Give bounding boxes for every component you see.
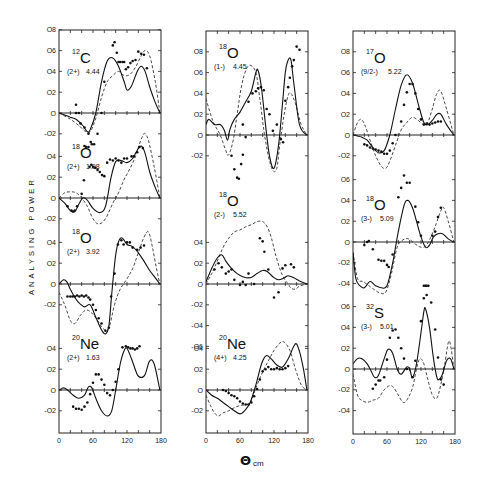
- data-point: [238, 177, 241, 180]
- data-point: [427, 285, 430, 288]
- nucleus-mass: 32: [366, 303, 374, 310]
- subplot-18O-4.45: O8O6O4O2O-O218O(1-)4.45: [191, 43, 308, 180]
- data-point: [383, 152, 386, 155]
- data-point: [411, 376, 414, 379]
- data-point: [428, 123, 431, 126]
- data-point: [250, 401, 253, 404]
- data-point: [374, 383, 377, 386]
- data-point: [114, 380, 117, 383]
- data-point: [261, 370, 264, 373]
- data-point: [75, 112, 78, 115]
- data-point: [138, 146, 141, 149]
- state-spin-parity: (2+): [67, 248, 80, 256]
- data-point: [389, 149, 392, 152]
- data-point: [239, 400, 242, 403]
- panel-frame: [353, 31, 455, 434]
- data-point: [284, 367, 287, 370]
- data-point: [363, 143, 366, 146]
- data-point: [87, 133, 90, 136]
- nucleus-mass: 18: [219, 43, 227, 50]
- data-point: [122, 243, 125, 246]
- data-point: [83, 179, 86, 182]
- data-point: [117, 368, 120, 371]
- data-point: [414, 92, 417, 95]
- data-point: [95, 309, 98, 312]
- y-tick-label: O6: [194, 69, 203, 76]
- nucleus-symbol: O: [80, 144, 92, 161]
- data-point: [281, 267, 284, 270]
- data-point: [403, 174, 406, 177]
- data-point: [101, 174, 104, 177]
- y-tick-label: -O2: [191, 301, 203, 308]
- y-tick-label: O4: [194, 239, 203, 246]
- data-point: [293, 266, 296, 269]
- data-point: [372, 248, 375, 251]
- data-point: [259, 237, 262, 240]
- data-point: [117, 159, 120, 162]
- data-point: [260, 86, 263, 89]
- y-tick-label: O2: [194, 366, 203, 373]
- y-tick-label: -O4: [338, 407, 350, 414]
- y-tick-label: -O2: [44, 301, 56, 308]
- data-point: [138, 345, 141, 348]
- x-tick-label: 180: [155, 437, 167, 444]
- data-point: [273, 368, 276, 371]
- data-point: [78, 407, 81, 410]
- y-tick-label: O: [198, 387, 204, 394]
- data-point: [143, 53, 146, 56]
- data-point: [280, 138, 283, 141]
- data-point: [125, 68, 128, 71]
- solid-curve: [59, 146, 160, 213]
- data-point: [264, 368, 267, 371]
- data-point: [69, 295, 72, 298]
- solid-curve: [353, 75, 454, 153]
- data-point: [276, 367, 279, 370]
- data-point: [106, 161, 109, 164]
- data-point: [240, 163, 243, 166]
- y-tick-label: O2: [341, 218, 350, 225]
- data-point: [227, 392, 230, 395]
- data-point: [287, 365, 290, 368]
- data-point: [287, 86, 290, 89]
- x-tick-label: 0: [351, 438, 355, 445]
- data-point: [267, 268, 270, 271]
- data-point: [103, 384, 106, 387]
- nucleus-mass: 20: [219, 334, 227, 341]
- data-point: [372, 387, 375, 390]
- data-point: [394, 328, 397, 331]
- data-point: [66, 295, 69, 298]
- data-point: [281, 368, 284, 371]
- y-tick-label: O: [51, 110, 57, 117]
- data-point: [417, 108, 420, 111]
- data-point: [437, 120, 440, 123]
- y-tick-label: -O4: [338, 280, 350, 287]
- data-point: [146, 67, 149, 70]
- data-point: [110, 295, 113, 298]
- data-point: [137, 50, 140, 53]
- x-axis-label: Θ cm: [240, 453, 264, 468]
- data-point: [129, 347, 132, 350]
- y-tick-label: -O2: [44, 407, 56, 414]
- data-point: [113, 41, 116, 44]
- data-point: [423, 123, 426, 126]
- data-point: [87, 296, 90, 299]
- data-point: [273, 296, 276, 299]
- data-point: [127, 346, 130, 349]
- data-point: [391, 253, 394, 256]
- data-point: [83, 295, 86, 298]
- solid-curve: [206, 255, 307, 284]
- state-spin-parity: (3-): [361, 215, 372, 223]
- y-tick-label: O4: [341, 197, 350, 204]
- y-tick-label: O8: [341, 48, 350, 55]
- panel-column-2: 060120180O8O6O4O2O-O217O(9/2-)5.22O6O4O2…: [338, 31, 461, 445]
- data-point: [256, 388, 259, 391]
- data-point: [386, 358, 389, 361]
- state-spin-parity: (2+): [67, 354, 80, 362]
- data-point: [119, 61, 122, 64]
- x-tick-label: 180: [449, 438, 461, 445]
- y-tick-label: O4: [341, 324, 350, 331]
- nucleus-symbol: O: [80, 229, 92, 246]
- data-point: [377, 149, 380, 152]
- x-axis-subscript: cm: [253, 459, 264, 468]
- data-point: [380, 150, 383, 153]
